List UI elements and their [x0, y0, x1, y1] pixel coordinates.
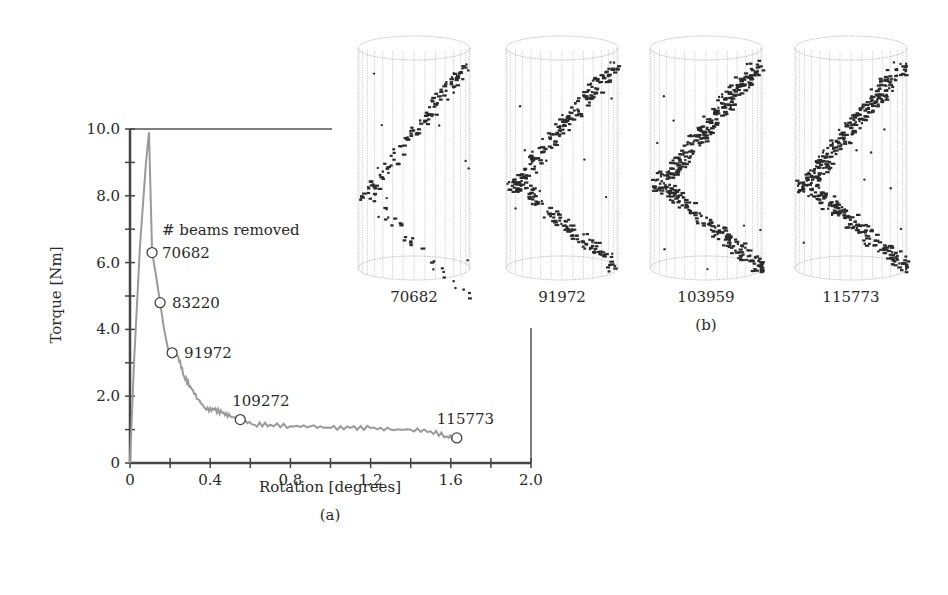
data-point-marker: [167, 348, 177, 358]
x-tick-label: 0: [125, 471, 135, 489]
x-tick-label: 1.6: [439, 471, 463, 489]
marker-label: 83220: [172, 294, 220, 312]
data-markers: 706828322091972109272115773: [147, 244, 494, 443]
y-tick-label: 8.0: [96, 187, 120, 205]
caption-b: (b): [695, 316, 716, 334]
x-axis-label: Rotation [degrees]: [259, 478, 401, 496]
x-tick-label: 0.4: [198, 471, 222, 489]
marker-label: 70682: [162, 244, 210, 262]
y-axis-label: Torque [Nm]: [47, 246, 65, 343]
y-tick-label: 0: [110, 454, 120, 472]
annotation-title: # beams removed: [162, 221, 300, 239]
data-point-marker: [147, 248, 157, 258]
cylinder-plot: 115773: [795, 36, 910, 306]
figure: 00.40.81.21.62.002.04.06.08.010.0 706828…: [0, 0, 948, 595]
cylinder-plot: 91972: [506, 36, 621, 306]
cylinder-label: 70682: [390, 288, 438, 306]
y-tick-label: 2.0: [96, 387, 120, 405]
cylinder-plot: 70682: [358, 36, 472, 306]
data-point-marker: [155, 298, 165, 308]
y-tick-label: 6.0: [96, 254, 120, 272]
data-point-marker: [235, 415, 245, 425]
cylinder-label: 115773: [822, 288, 879, 306]
torque-rotation-chart: 00.40.81.21.62.002.04.06.08.010.0 706828…: [47, 120, 543, 524]
cylinder-label: 103959: [677, 288, 734, 306]
marker-label: 109272: [232, 392, 289, 410]
cylinder-label: 91972: [538, 288, 586, 306]
y-tick-label: 10.0: [87, 120, 120, 138]
marker-label: 115773: [437, 410, 494, 428]
cylinder-plot: 103959: [650, 36, 765, 306]
y-tick-label: 4.0: [96, 320, 120, 338]
marker-label: 91972: [184, 344, 232, 362]
cylinder-panels: 7068291972103959115773: [358, 36, 910, 306]
x-tick-label: 2.0: [519, 471, 543, 489]
caption-a: (a): [320, 506, 341, 524]
data-point-marker: [452, 433, 462, 443]
